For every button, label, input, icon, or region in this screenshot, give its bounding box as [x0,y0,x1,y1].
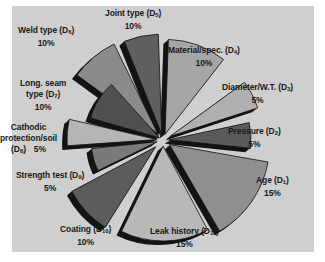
label-name: Pressure (D [228,126,275,136]
label-close: ) [158,8,161,18]
label-percent: 10% [20,102,66,113]
label-percent: 5% [34,144,46,154]
label-pressure: Pressure (D2)5% [228,126,281,150]
label-line-3: (D [11,144,20,154]
label-line-2: type (D [26,89,54,99]
label-age: Age (D1)15% [256,175,289,199]
label-strength-test: Strength test (D9)5% [16,170,84,194]
label-close: ) [290,82,293,92]
label-name: Joint type (D [105,8,155,18]
label-close: ) [57,89,60,99]
label-leak-history: Leak history (D11)15% [150,226,219,250]
label-name: Age (D [256,175,283,185]
label-line-1: Long. seam [20,78,66,88]
label-name: Coating (D [60,224,102,234]
label-name: Material/spec. (D [168,45,234,55]
label-percent: 10% [18,38,74,49]
label-close: ) [81,170,84,180]
label-close: ) [286,175,289,185]
label-line-2: protection/soil [0,133,57,143]
label-close: ) [237,45,240,55]
label-name: Diameter/W.T. (D [222,82,287,92]
label-diameter-wt: Diameter/W.T. (D3)5% [222,82,293,106]
label-long-seam: Long. seamtype (D7)10% [20,78,66,113]
label-name: Weld type (D [18,25,68,35]
label-close: ) [108,224,111,234]
label-close: ) [278,126,281,136]
label-name: Strength test (D [16,170,78,180]
label-percent: 15% [256,188,289,199]
label-percent: 10% [168,58,240,69]
label-percent: 10% [105,21,161,32]
label-name: Leak history (D [150,226,210,236]
label-percent: 10% [60,237,111,248]
label-cathodic: Cathodicprotection/soil(D8)5% [0,122,57,157]
label-percent: 5% [16,183,84,194]
label-coating: Coating (D10)10% [60,224,111,248]
label-close: ) [71,25,74,35]
label-material-spec: Material/spec. (D4)10% [168,45,240,69]
label-percent: 15% [150,239,219,250]
label-percent: 5% [222,95,293,106]
label-weld-type: Weld type (D6)10% [18,25,74,49]
label-joint-type: Joint type (D5)10% [105,8,161,32]
label-percent: 5% [228,139,281,150]
label-close: ) [23,144,26,154]
label-close: ) [216,226,219,236]
label-line-1: Cathodic [11,122,47,132]
